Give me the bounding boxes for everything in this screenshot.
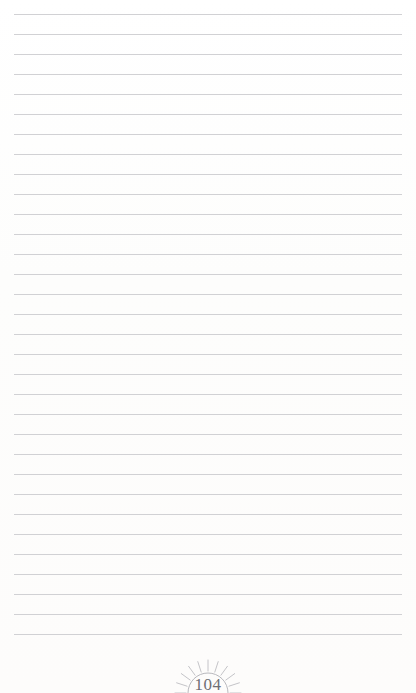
sun-ray: [221, 666, 227, 675]
page-number: 104: [166, 676, 250, 693]
sun-ray: [215, 662, 218, 672]
rule-line: [14, 634, 402, 635]
sun-ray: [189, 666, 195, 675]
sun-ray: [198, 662, 201, 672]
writing-area[interactable]: [14, 14, 402, 634]
sunrise-ornament: 104: [166, 648, 250, 693]
page-footer: 104: [0, 648, 416, 693]
notebook-page: 104: [0, 0, 416, 693]
